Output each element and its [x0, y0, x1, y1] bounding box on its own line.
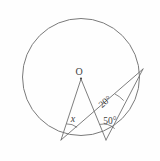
geometry-figure: O x 20° 50°	[0, 0, 160, 161]
center-point-dot	[80, 77, 82, 79]
angle-x-arc	[66, 124, 77, 127]
segment-chord-BC	[106, 69, 143, 140]
angle-20-arc	[115, 94, 124, 101]
circle-outline	[23, 19, 140, 136]
label-center-o: O	[75, 66, 82, 77]
label-angle-50: 50°	[103, 116, 117, 126]
label-angle-x: x	[70, 113, 76, 124]
geometry-canvas: O x 20° 50°	[0, 0, 160, 161]
